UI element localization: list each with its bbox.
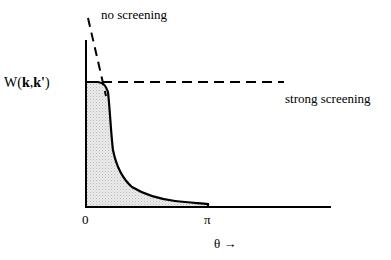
y-label-suffix: ) bbox=[45, 75, 50, 90]
x-axis-label: θ → bbox=[214, 236, 236, 252]
strong-screening-label: strong screening bbox=[285, 91, 371, 107]
y-label-prefix: W( bbox=[4, 75, 22, 90]
no-screening-label: no screening bbox=[101, 7, 167, 23]
x-tick-pi: π bbox=[204, 212, 211, 228]
y-label-kprime: k' bbox=[33, 75, 45, 90]
y-label-k: k bbox=[22, 75, 30, 90]
x-tick-zero: 0 bbox=[82, 212, 89, 228]
y-axis-label: W(k,k') bbox=[4, 75, 50, 91]
shaded-area bbox=[86, 82, 208, 207]
screening-diagram bbox=[0, 0, 391, 260]
